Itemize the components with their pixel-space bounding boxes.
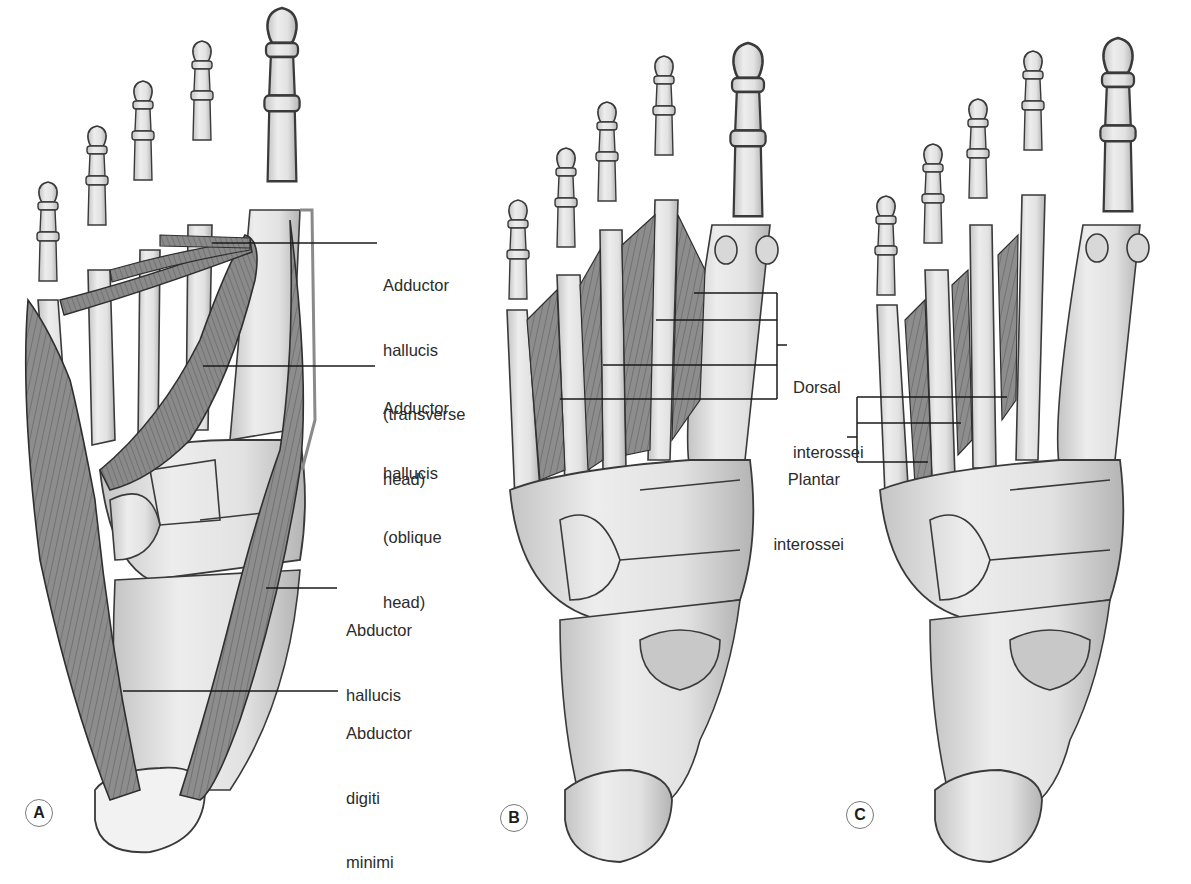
panel-b-illustration <box>507 43 778 862</box>
label-line: interossei <box>770 534 844 556</box>
label-line: Plantar <box>770 469 844 491</box>
panel-c-illustration <box>875 38 1149 862</box>
panel-marker-b: B <box>500 804 528 832</box>
label-line: Dorsal <box>793 377 864 399</box>
label-line: hallucis <box>383 463 449 485</box>
label-abductor-digiti-minimi: Abductor digiti minimi <box>346 680 412 884</box>
label-plantar-interossei: Plantar interossei <box>770 426 844 577</box>
label-line: Adductor <box>383 398 449 420</box>
label-line: digiti <box>346 788 412 810</box>
panel-a-illustration <box>26 8 315 852</box>
label-line: (oblique <box>383 527 449 549</box>
panel-marker-a: A <box>25 799 53 827</box>
label-line: minimi <box>346 852 412 874</box>
foot-anatomy-illustration <box>0 0 1191 884</box>
label-line: Adductor <box>383 275 466 297</box>
label-line: Abductor <box>346 620 412 642</box>
label-line: Abductor <box>346 723 412 745</box>
panel-marker-c: C <box>846 801 874 829</box>
